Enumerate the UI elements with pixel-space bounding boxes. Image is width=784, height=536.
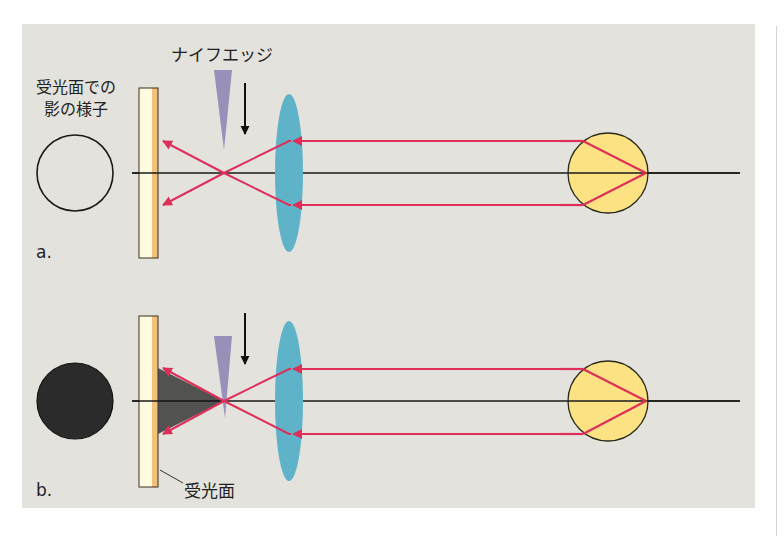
panel-background bbox=[22, 24, 755, 508]
shadow-view-circle-dark bbox=[37, 363, 113, 439]
screen-label: 受光面 bbox=[184, 481, 235, 501]
knife-edge-label: ナイフエッジ bbox=[171, 45, 273, 65]
knife-edge-test-diagram: ナイフエッジ 受光面での 影の様子 a. bbox=[0, 0, 784, 536]
panel-a-label: a. bbox=[36, 242, 52, 262]
lens bbox=[275, 94, 303, 252]
panel-b-label: b. bbox=[36, 480, 52, 500]
lens bbox=[275, 321, 303, 481]
shadow-view-label-line1: 受光面での bbox=[36, 78, 116, 97]
shadow-view-label-line2: 影の様子 bbox=[44, 100, 108, 119]
